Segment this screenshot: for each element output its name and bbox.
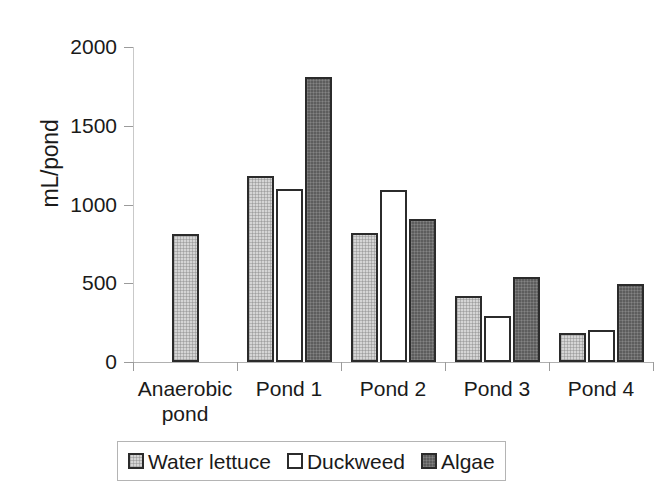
x-axis-category-label: Pond 4 [531, 376, 666, 401]
y-axis-tick-label: 0 [27, 351, 117, 372]
bar [172, 234, 199, 362]
plot-area [133, 47, 653, 362]
bar [409, 219, 436, 362]
y-axis-tick [124, 47, 133, 48]
legend-item[interactable]: Algae [421, 451, 495, 472]
x-axis-category-label-line: Pond 4 [531, 376, 666, 401]
legend-item[interactable]: Duckweed [287, 451, 405, 472]
bar [276, 189, 303, 362]
bar [617, 284, 644, 362]
bar [588, 330, 615, 362]
legend-swatch-water-lettuce-icon [128, 453, 144, 469]
bar [513, 277, 540, 362]
y-axis-tick [124, 283, 133, 284]
y-axis-tick-label: 500 [27, 272, 117, 293]
bar [247, 176, 274, 362]
y-axis-tick-label: 1000 [27, 194, 117, 215]
legend-items: Water lettuceDuckweedAlgae [128, 451, 495, 472]
x-axis-tick [133, 362, 134, 371]
y-axis-tick-label: 2000 [27, 36, 117, 57]
x-axis-tick [445, 362, 446, 371]
bar-chart: mL/pond 2000150010005000 AnaerobicpondPo… [0, 0, 666, 504]
x-axis-category-label-line: pond [115, 401, 255, 426]
legend-swatch-algae-icon [421, 453, 437, 469]
y-axis-line [133, 47, 134, 363]
legend: Water lettuceDuckweedAlgae [117, 441, 506, 481]
bar [484, 316, 511, 362]
x-axis-line [133, 362, 653, 363]
y-axis-tick [124, 205, 133, 206]
legend-item-label: Algae [441, 451, 495, 472]
bar [305, 77, 332, 362]
x-axis-tick [237, 362, 238, 371]
y-axis-tick-label: 1500 [27, 115, 117, 136]
bar [380, 190, 407, 362]
legend-item-label: Water lettuce [148, 451, 271, 472]
bar [351, 233, 378, 362]
x-axis-tick [653, 362, 654, 371]
x-axis-tick [549, 362, 550, 371]
y-axis-title: mL/pond [37, 84, 64, 244]
legend-swatch-duckweed-icon [287, 453, 303, 469]
y-axis-tick [124, 126, 133, 127]
x-axis-tick [341, 362, 342, 371]
legend-item[interactable]: Water lettuce [128, 451, 271, 472]
legend-item-label: Duckweed [307, 451, 405, 472]
bar [559, 333, 586, 362]
bar [455, 296, 482, 362]
y-axis-tick [124, 362, 133, 363]
